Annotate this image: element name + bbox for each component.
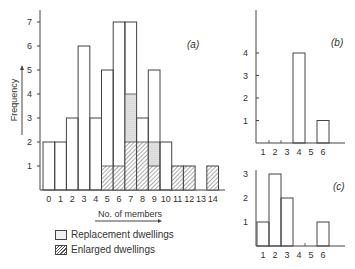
svg-text:3: 3 <box>81 194 86 204</box>
svg-text:12: 12 <box>184 194 194 204</box>
svg-text:3: 3 <box>243 71 248 81</box>
svg-text:2: 2 <box>243 193 248 203</box>
svg-text:1: 1 <box>260 147 265 157</box>
panel-b-histogram: 1234123456(b) <box>243 10 345 157</box>
svg-text:3: 3 <box>284 250 289 260</box>
legend-enlarged-label: Enlarged dwellings <box>71 244 155 255</box>
svg-text:6: 6 <box>117 194 122 204</box>
svg-text:3: 3 <box>243 169 248 179</box>
svg-text:2: 2 <box>272 147 277 157</box>
svg-text:5: 5 <box>105 194 110 204</box>
svg-text:2: 2 <box>70 194 75 204</box>
svg-text:6: 6 <box>320 147 325 157</box>
svg-text:4: 4 <box>243 48 248 58</box>
svg-text:11: 11 <box>173 194 182 204</box>
svg-text:4: 4 <box>296 147 301 157</box>
legend-replacement-label: Replacement dwellings <box>71 229 174 240</box>
svg-text:9: 9 <box>152 194 157 204</box>
svg-text:(c): (c) <box>333 181 345 192</box>
svg-text:3: 3 <box>27 113 32 123</box>
svg-text:5: 5 <box>308 147 313 157</box>
svg-text:(a): (a) <box>187 39 199 50</box>
svg-text:Frequency: Frequency <box>9 78 19 121</box>
svg-text:4: 4 <box>27 89 32 99</box>
svg-text:6: 6 <box>320 250 325 260</box>
svg-text:1: 1 <box>58 194 63 204</box>
svg-text:No. of members: No. of members <box>98 209 163 219</box>
legend-replacement: Replacement dwellings <box>55 229 174 240</box>
svg-text:2: 2 <box>272 250 277 260</box>
dotted-swatch-icon <box>55 230 67 240</box>
svg-text:2: 2 <box>243 93 248 103</box>
svg-text:1: 1 <box>243 116 248 126</box>
svg-text:8: 8 <box>140 194 145 204</box>
chart-canvas: 123456701234567891011121314No. of member… <box>0 0 355 269</box>
svg-text:7: 7 <box>128 194 133 204</box>
panel-c-histogram: 123123456(c) <box>243 169 345 260</box>
svg-text:4: 4 <box>93 194 98 204</box>
hatched-swatch-icon <box>55 245 67 255</box>
svg-text:2: 2 <box>27 137 32 147</box>
svg-text:(b): (b) <box>331 37 343 48</box>
svg-text:5: 5 <box>27 65 32 75</box>
svg-text:1: 1 <box>27 161 32 171</box>
svg-text:4: 4 <box>296 250 301 260</box>
svg-text:3: 3 <box>284 147 289 157</box>
svg-text:1: 1 <box>260 250 265 260</box>
svg-text:6: 6 <box>27 41 32 51</box>
legend-enlarged: Enlarged dwellings <box>55 244 155 255</box>
svg-text:13: 13 <box>196 194 206 204</box>
svg-text:10: 10 <box>161 194 171 204</box>
svg-text:1: 1 <box>243 217 248 227</box>
svg-text:0: 0 <box>46 194 51 204</box>
svg-text:7: 7 <box>27 17 32 27</box>
svg-text:14: 14 <box>208 194 218 204</box>
panel-a-histogram: 123456701234567891011121314No. of member… <box>9 10 225 223</box>
svg-text:5: 5 <box>308 250 313 260</box>
